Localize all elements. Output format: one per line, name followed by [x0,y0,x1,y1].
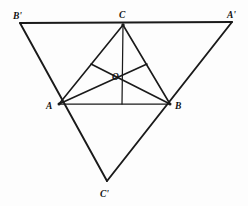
label-a: A [45,101,52,111]
label-c-prime: C' [100,189,109,199]
label-c: C [119,10,126,20]
median-from-c [122,25,123,104]
label-b: B [174,101,181,111]
label-o: O [112,72,119,82]
medians [59,25,170,104]
label-b-prime: B' [12,11,22,21]
vertex-dot-b [169,103,172,106]
vertex-dot-a [58,103,61,106]
segment-a-prime-c-prime [107,22,232,181]
inner-triangle [59,25,170,104]
geometry-figure: B' C A' A B O C' [0,0,248,206]
diagram-canvas: B' C A' A B O C' [0,0,248,206]
vertex-dot-c [121,23,124,26]
label-a-prime: A' [226,10,236,20]
segment-b-prime-a-prime [20,22,232,23]
